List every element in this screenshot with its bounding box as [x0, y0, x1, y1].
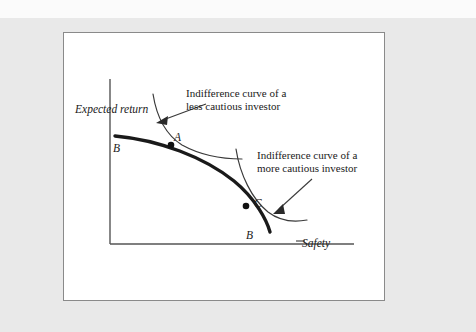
- callout-arrow-more-cautious: [273, 179, 312, 214]
- callout-less-cautious-investor: Indifference curve of a less cautious in…: [186, 87, 286, 113]
- figure-page: Expected return Safety B A C B Indiffere…: [0, 0, 476, 332]
- frontier-label-b-left: B: [113, 142, 120, 156]
- x-axis-label: Safety: [302, 237, 330, 251]
- point-label-c: C: [254, 197, 262, 211]
- tangency-point-c: [243, 203, 250, 210]
- frontier-label-b-bottom: B: [246, 229, 253, 243]
- callout-more-cautious-investor: Indifference curve of a more cautious in…: [257, 149, 357, 175]
- figure-panel: Expected return Safety B A C B Indiffere…: [63, 32, 385, 301]
- page-background-band: [0, 0, 476, 18]
- y-axis-label: Expected return: [75, 103, 148, 117]
- point-label-a: A: [174, 131, 181, 145]
